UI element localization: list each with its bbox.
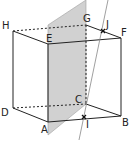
label-E: E bbox=[46, 33, 52, 44]
edge-DA bbox=[13, 108, 48, 122]
label-I: I bbox=[86, 119, 89, 130]
label-B: B bbox=[122, 117, 129, 128]
edge-CB bbox=[86, 104, 121, 116]
label-G: G bbox=[83, 13, 91, 24]
label-D: D bbox=[1, 107, 9, 118]
label-J: J bbox=[105, 19, 109, 30]
label-C: C bbox=[75, 94, 82, 105]
label-A: A bbox=[41, 124, 48, 135]
cube-diagram: H E G J F D C A I B bbox=[0, 0, 129, 143]
cutting-plane bbox=[48, 0, 86, 135]
edge-HE bbox=[13, 31, 48, 44]
label-H: H bbox=[2, 20, 10, 31]
label-F: F bbox=[121, 27, 127, 38]
